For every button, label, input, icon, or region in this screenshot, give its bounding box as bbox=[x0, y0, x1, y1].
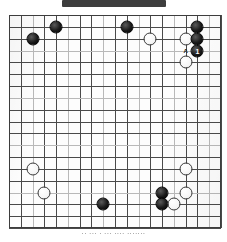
header-band-text bbox=[62, 0, 166, 7]
grid-line-horizontal bbox=[9, 122, 221, 123]
go-stone-black[interactable] bbox=[120, 20, 133, 33]
grid-line-horizontal bbox=[9, 204, 221, 205]
go-stone-black[interactable] bbox=[26, 32, 39, 45]
board-point-label: A bbox=[183, 48, 187, 54]
grid-line-horizontal bbox=[9, 51, 221, 52]
grid-line-horizontal bbox=[9, 98, 221, 99]
go-stone-white[interactable] bbox=[26, 162, 39, 175]
figure-caption: ·· ··· · ··· ···· ······· bbox=[0, 230, 227, 242]
go-board-container[interactable]: 1A bbox=[9, 15, 221, 228]
go-stone-white[interactable] bbox=[179, 162, 192, 175]
go-stone-white[interactable] bbox=[179, 56, 192, 69]
go-stone-white[interactable] bbox=[167, 198, 180, 211]
grid-line-horizontal bbox=[9, 110, 221, 111]
grid-line-horizontal bbox=[9, 181, 221, 182]
grid-line-horizontal bbox=[9, 145, 221, 146]
grid-line-horizontal bbox=[9, 216, 221, 217]
grid-line-horizontal bbox=[9, 133, 221, 134]
window-header-band bbox=[62, 0, 166, 7]
stone-move-number: 1 bbox=[192, 45, 203, 56]
grid-line-horizontal bbox=[9, 15, 221, 16]
grid-line-horizontal bbox=[9, 86, 221, 87]
grid-line-horizontal bbox=[9, 74, 221, 75]
go-stone-white[interactable] bbox=[179, 186, 192, 199]
grid-line-horizontal bbox=[9, 228, 221, 229]
go-stone-black[interactable] bbox=[97, 198, 110, 211]
go-stone-white[interactable] bbox=[144, 32, 157, 45]
go-stone-white[interactable] bbox=[38, 186, 51, 199]
grid-line-horizontal bbox=[9, 157, 221, 158]
go-stone-black[interactable] bbox=[50, 20, 63, 33]
go-stone-black[interactable]: 1 bbox=[191, 44, 204, 57]
grid-line-horizontal bbox=[9, 27, 221, 28]
grid-line-vertical bbox=[221, 15, 222, 228]
